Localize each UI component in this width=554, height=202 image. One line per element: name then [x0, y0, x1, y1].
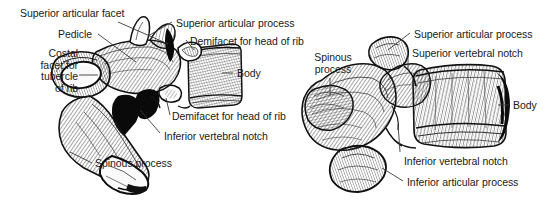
label-inferior-vertebral-notch-left: Inferior vertebral notch — [164, 131, 268, 143]
spinous-process-right-line-1: Spinous — [314, 51, 352, 63]
label-inferior-vertebral-notch-right: Inferior vertebral notch — [404, 156, 508, 168]
costal-facet-line-3: tubercle — [41, 70, 78, 82]
label-inferior-articular-process: Inferior articular process — [407, 177, 518, 189]
costal-facet-line-2: facet for — [41, 59, 79, 71]
spinous-process-right-line-2: process — [315, 63, 351, 75]
label-spinous-process-left: Spinous process — [95, 158, 172, 170]
label-superior-articular-facet: Superior articular facet — [20, 8, 124, 20]
label-superior-articular-process-left: Superior articular process — [176, 18, 294, 30]
label-body-left: Body — [237, 68, 261, 80]
label-demifacet-for-head-of-rib-inferior: Demifacet for head of rib — [172, 111, 286, 123]
anatomy-figure: Superior articular facet Pedicle Costalf… — [0, 0, 554, 202]
label-spinous-process-right: Spinousprocess — [308, 52, 358, 75]
label-superior-vertebral-notch: Superior vertebral notch — [412, 48, 523, 60]
label-body-right: Body — [513, 100, 537, 112]
costal-facet-line-4: of rib — [55, 82, 78, 94]
label-demifacet-for-head-of-rib-superior: Demifacet for head of rib — [190, 36, 304, 48]
label-pedicle: Pedicle — [58, 29, 92, 41]
label-superior-articular-process-right: Superior articular process — [414, 29, 532, 41]
costal-facet-line-1: Costal — [49, 47, 78, 59]
label-costal-facet-for-tubercle-of-rib: Costalfacet fortubercleof rib — [22, 48, 78, 94]
